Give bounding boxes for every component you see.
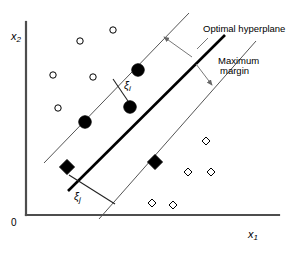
svm-diagram-figure: x2 x1 0 Optimal hyperplane Maximum margi… — [0, 0, 289, 258]
slack-connectors-group — [69, 79, 130, 204]
marker-open-diamond — [202, 137, 210, 145]
optimal-hyperplane-leader-line — [197, 38, 208, 49]
y-axis-label: x2 — [11, 31, 21, 44]
optimal-hyperplane-line — [68, 35, 225, 191]
marker-open-circle — [110, 27, 116, 33]
marker-open-circle — [55, 105, 61, 111]
marker-filled-circle — [124, 101, 136, 113]
y-axis-label-subscript: 2 — [17, 35, 21, 44]
origin-label: 0 — [11, 218, 17, 228]
marker-open-circle — [77, 38, 83, 44]
diagram-canvas — [0, 0, 289, 258]
marker-open-circle — [50, 72, 56, 78]
slack-variable-i-label: ξi — [124, 80, 131, 93]
slack-j-subscript: j — [79, 195, 81, 204]
marker-filled-circle — [79, 116, 91, 128]
marker-open-circle — [90, 74, 96, 80]
slack-variable-j-label: ξj — [74, 191, 81, 204]
marker-open-diamond — [148, 199, 156, 207]
maximum-margin-label: Maximum margin — [218, 56, 259, 75]
maximum-margin-label-line2: margin — [220, 66, 259, 76]
marker-open-diamond — [169, 201, 177, 209]
optimal-hyperplane-label: Optimal hyperplane — [203, 24, 285, 34]
marker-filled-diamond — [60, 160, 75, 175]
marker-filled-diamond — [148, 155, 163, 170]
marker-open-diamond — [184, 168, 192, 176]
marker-open-diamond — [207, 168, 215, 176]
margin-arrow-lower — [196, 64, 212, 85]
marker-filled-circle — [132, 64, 144, 76]
upper-margin-boundary-line — [44, 13, 189, 163]
margin-arrows-group — [164, 37, 212, 85]
margin-arrow-upper — [164, 37, 192, 57]
x-axis-label-subscript: 1 — [254, 233, 258, 242]
slack-i-subscript: i — [129, 84, 131, 93]
series-class-a-support-vectors-filled-circles — [79, 64, 144, 128]
x-axis-label: x1 — [248, 229, 258, 242]
series-class-b-open-diamonds — [148, 137, 215, 209]
boundary-lines-group — [44, 13, 256, 219]
